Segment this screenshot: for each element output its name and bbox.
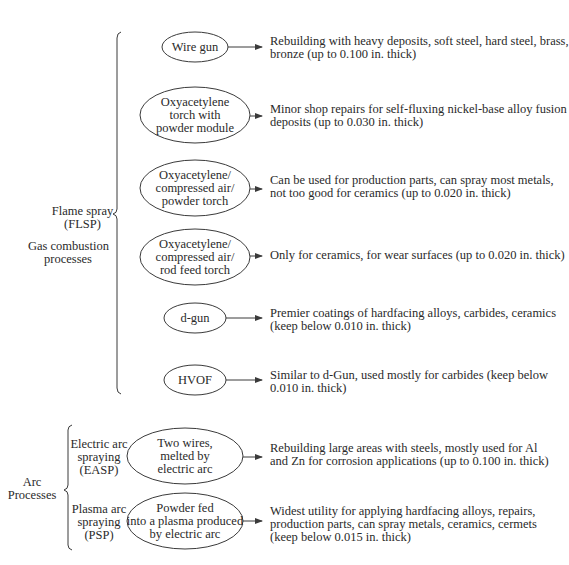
gas-combustion-label: Gas combustion processes xyxy=(28,240,108,266)
desc-oxy-powder-module: Minor shop repairs for self-fluxing nick… xyxy=(270,103,567,129)
flame-spray-label: Flame spray (FLSP) xyxy=(50,205,115,231)
desc-psp: Widest utility for applying hardfacing a… xyxy=(270,505,537,544)
node-easp: Two wires, melted by electric arc xyxy=(127,428,243,484)
node-d-gun: d-gun xyxy=(164,303,226,333)
node-oxy-powder-module: Oxyacetylene torch with powder module xyxy=(140,87,250,143)
node-hvof: HVOF xyxy=(164,365,226,395)
easp-label: Electric arc spraying (EASP) xyxy=(68,438,130,477)
node-wire-gun: Wire gun xyxy=(162,32,228,62)
arc-processes-label: Arc Processes xyxy=(0,476,64,502)
desc-wire-gun: Rebuilding with heavy deposits, soft ste… xyxy=(270,35,569,61)
psp-label: Plasma arc spraying (PSP) xyxy=(68,503,130,542)
desc-d-gun: Premier coatings of hardfacing alloys, c… xyxy=(270,307,556,333)
node-oxy-air-powder: Oxyacetylene/ compressed air/ powder tor… xyxy=(140,160,250,216)
node-oxy-air-rod: Oxyacetylene/ compressed air/ rod feed t… xyxy=(140,229,250,285)
desc-easp: Rebuilding large areas with steels, most… xyxy=(270,442,549,468)
node-psp: Powder fed into a plasma produced by ele… xyxy=(127,493,243,549)
desc-hvof: Similar to d-Gun, used mostly for carbid… xyxy=(270,369,548,395)
desc-oxy-air-rod: Only for ceramics, for wear surfaces (up… xyxy=(270,249,565,262)
desc-oxy-air-powder: Can be used for production parts, can sp… xyxy=(270,174,554,200)
